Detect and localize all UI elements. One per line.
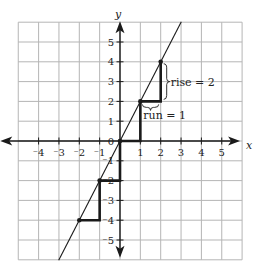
data-point xyxy=(138,99,143,104)
y-tick-label: 0 xyxy=(108,136,114,147)
y-tick-label: 4 xyxy=(108,56,114,67)
y-axis-label: y xyxy=(114,8,122,21)
coordinate-plane-figure: ⁻4⁻3⁻2⁻112345⁻5⁻4⁻3⁻2⁻1012345 x y rise =… xyxy=(0,0,259,270)
data-point xyxy=(77,218,82,223)
y-tick-label: ⁻4 xyxy=(102,215,114,226)
x-tick-label: 1 xyxy=(137,147,143,158)
y-tick-label: 1 xyxy=(108,116,114,127)
y-tick-label: ⁻5 xyxy=(102,235,114,246)
data-point xyxy=(118,139,123,144)
x-tick-label: 3 xyxy=(178,147,184,158)
y-tick-label: ⁻3 xyxy=(102,195,114,206)
y-tick-label: 5 xyxy=(108,37,114,48)
x-tick-label: ⁻3 xyxy=(53,147,65,158)
coordinate-plane: ⁻4⁻3⁻2⁻112345⁻5⁻4⁻3⁻2⁻1012345 x y rise =… xyxy=(0,0,259,270)
labels: x y rise = 2 run = 1 xyxy=(114,8,253,152)
x-tick-label: ⁻2 xyxy=(73,147,85,158)
y-tick-label: 2 xyxy=(108,96,114,107)
x-tick-label: ⁻4 xyxy=(33,147,45,158)
x-tick-label: 2 xyxy=(158,147,164,158)
x-tick-label: 4 xyxy=(198,147,204,158)
y-tick-label: 3 xyxy=(108,76,114,87)
x-axis-label: x xyxy=(246,139,253,152)
x-tick-label: 5 xyxy=(219,147,225,158)
data-point xyxy=(158,60,163,65)
run-annotation: run = 1 xyxy=(143,109,186,122)
rise-annotation: rise = 2 xyxy=(171,76,215,89)
data-point xyxy=(97,178,102,183)
